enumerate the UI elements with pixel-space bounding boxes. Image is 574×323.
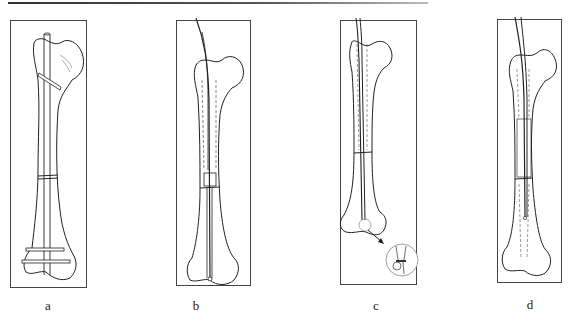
panel-label-b: b	[186, 298, 206, 314]
panel-label-a: a	[38, 298, 58, 314]
panel-label-c: c	[366, 298, 386, 314]
femur-reamer-inset-illustration	[340, 20, 418, 286]
top-rule	[8, 2, 428, 4]
femur-guidewire-illustration	[176, 20, 252, 286]
panel-b	[176, 20, 252, 286]
femur-nail-insertion-illustration	[497, 19, 563, 284]
panel-c	[340, 20, 418, 286]
panel-label-d: d	[520, 297, 540, 313]
panel-a	[10, 20, 88, 288]
femur-rod-screws-illustration	[10, 20, 88, 288]
panel-d	[497, 19, 563, 284]
